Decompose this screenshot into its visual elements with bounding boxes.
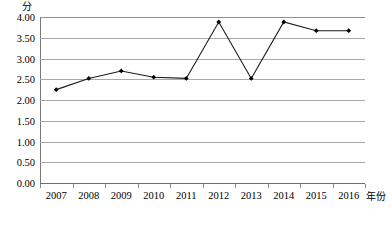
y-axis-tick-label: 3.00 [17,53,35,64]
y-axis-tick-label: 0.00 [17,178,35,189]
x-axis-tick-mark [203,184,204,188]
y-axis-tick-label: 1.50 [17,115,35,126]
x-axis-tick-mark [40,184,41,188]
x-axis-tick-mark [105,184,106,188]
gridline [40,17,365,18]
y-axis-tick-label: 2.00 [17,95,35,106]
x-axis-tick-label: 2016 [338,189,359,202]
plot-area [40,17,365,183]
x-axis-tick-mark [300,184,301,188]
x-axis-tick-label: 2008 [78,189,99,202]
y-axis-tick-label: 2.50 [17,74,35,85]
y-axis-tick-label: 0.50 [17,157,35,168]
x-axis-tick-label: 2012 [208,189,229,202]
gridline [40,121,365,122]
x-axis-title: 年份 [366,190,386,203]
gridline [40,100,365,101]
x-axis-tick-mark [138,184,139,188]
gridline [40,142,365,143]
x-axis-tick-label: 2011 [176,189,197,202]
gridline [40,38,365,39]
y-axis-tick-label: 4.00 [17,12,35,23]
x-axis-tick-label: 2009 [111,189,132,202]
x-axis-tick-mark [268,184,269,188]
y-axis-tick-label: 3.50 [17,32,35,43]
x-axis-tick-mark [333,184,334,188]
gridline [40,79,365,80]
x-axis-tick-label: 2015 [306,189,327,202]
x-axis-tick-mark [235,184,236,188]
gridline [40,162,365,163]
gridline [40,59,365,60]
x-axis-tick-label: 2014 [273,189,294,202]
y-axis-tick-label: 1.00 [17,136,35,147]
x-axis-tick-mark [170,184,171,188]
line-chart: 分 4.003.503.002.502.001.501.000.500.00 2… [0,0,392,235]
x-axis-tick-mark [73,184,74,188]
x-axis-tick-mark [365,184,366,188]
x-axis-tick-labels: 2007200820092010201120122013201420152016 [0,189,392,207]
x-axis-tick-label: 2010 [143,189,164,202]
x-axis-tick-label: 2013 [241,189,262,202]
x-axis-tick-label: 2007 [46,189,67,202]
